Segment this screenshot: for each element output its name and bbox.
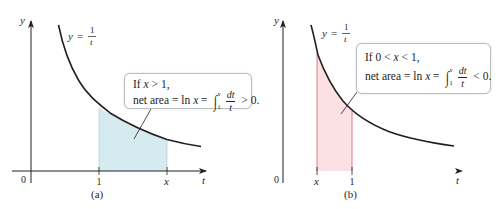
svg-text:t: t [90, 37, 93, 47]
tick-label-x: x [163, 175, 169, 187]
tick-label-x: x [313, 175, 319, 187]
integral-sign: ∫ x 1 [213, 91, 220, 111]
negative-area-shading [317, 53, 352, 171]
svg-text:1: 1 [344, 22, 349, 32]
callout-condition: If 0 < x < 1, [365, 49, 482, 66]
integral-sign: ∫ x 1 [445, 67, 452, 87]
svg-text:t: t [344, 34, 347, 44]
y-axis-label: y [273, 14, 279, 26]
positive-area-shading [99, 108, 167, 171]
panel-caption-a: (a) [91, 188, 104, 201]
svg-text:=: = [77, 30, 83, 42]
curve-label-a: y = 1 t [67, 25, 96, 47]
svg-text:y: y [67, 30, 73, 42]
fraction-dt-over-t: dt t [458, 66, 468, 89]
x-axis-label: t [202, 174, 206, 186]
origin-label: 0 [21, 174, 26, 185]
svg-text:y: y [321, 27, 327, 39]
tick-label-1: 1 [350, 176, 355, 187]
origin-label: 0 [274, 174, 279, 185]
panel-caption-b: (b) [344, 188, 357, 201]
callout-formula: net area = ln x = ∫ x 1 dt t > 0. [133, 93, 243, 109]
curve-label-b: y = 1 t [321, 22, 350, 44]
callout-negative-area: If 0 < x < 1, net area = ln x = ∫ x 1 dt… [356, 43, 491, 94]
callout-positive-area: If x > 1, net area = ln x = ∫ x 1 dt t >… [124, 73, 252, 109]
fraction-dt-over-t: dt t [226, 90, 236, 113]
x-axis-label: t [456, 174, 460, 186]
svg-text:=: = [331, 27, 337, 39]
callout-formula: net area = ln x = ∫ x 1 dt t < 0. [365, 66, 482, 88]
svg-text:1: 1 [90, 25, 95, 35]
y-axis-label: y [19, 14, 25, 26]
tick-label-1: 1 [97, 176, 102, 187]
